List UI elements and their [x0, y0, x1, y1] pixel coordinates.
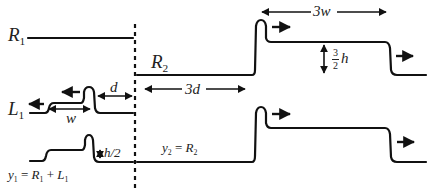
label-h-half: h/2 [104, 146, 121, 159]
label-r1: R1 [8, 25, 25, 47]
label-l1: L1 [8, 99, 24, 121]
label-three-halves-h: 32h [332, 48, 349, 71]
label-three-w: 3w [313, 4, 331, 19]
label-y2-equation: y2 = R2 [162, 141, 197, 157]
wave-reflection-diagram [0, 0, 436, 191]
label-r2: R2 [151, 52, 168, 74]
label-d: d [110, 80, 118, 95]
label-y1-equation: y1 = R1 + L1 [8, 168, 68, 184]
label-w: w [66, 111, 76, 126]
r2-waveform [137, 20, 426, 75]
label-three-d: 3d [185, 82, 200, 97]
